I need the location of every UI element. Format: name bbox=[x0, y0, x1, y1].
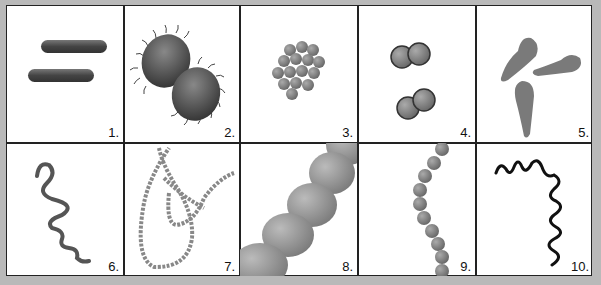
cell-1-bacilli: 1. bbox=[7, 6, 123, 142]
cell-6-spirillum: 6. bbox=[7, 143, 123, 276]
cell-4-diplococci: 4. bbox=[358, 6, 475, 142]
cell-number: 9. bbox=[460, 259, 471, 274]
cell-number: 4. bbox=[460, 125, 471, 140]
staphylococci-icon bbox=[240, 6, 357, 142]
chain-closeup-icon bbox=[240, 143, 357, 276]
club-bacteria-icon bbox=[476, 6, 593, 142]
cell-number: 10. bbox=[571, 259, 589, 274]
flagellated-cocci-icon bbox=[124, 6, 239, 142]
bacteria-shapes-grid: 1. 2. 3. bbox=[6, 5, 592, 276]
cell-number: 8. bbox=[342, 259, 353, 274]
long-chain-icon bbox=[124, 143, 239, 276]
spirillum-icon bbox=[7, 143, 123, 276]
cell-2-flagellated: 2. bbox=[124, 6, 239, 142]
cell-number: 7. bbox=[224, 259, 235, 274]
spirochete-icon bbox=[476, 143, 593, 276]
cell-number: 2. bbox=[224, 125, 235, 140]
cell-number: 6. bbox=[108, 259, 119, 274]
cell-9-streptococci: 9. bbox=[358, 143, 475, 276]
cell-number: 1. bbox=[108, 125, 119, 140]
streptococci-chain-icon bbox=[358, 143, 475, 276]
bacilli-rods-icon bbox=[7, 6, 123, 142]
cell-7-streptococci-long: 7. bbox=[124, 143, 239, 276]
cell-5-club-shaped: 5. bbox=[476, 6, 593, 142]
cell-number: 5. bbox=[578, 125, 589, 140]
cell-3-staphylococci: 3. bbox=[240, 6, 357, 142]
cell-10-spirochete: 10. bbox=[476, 143, 593, 276]
diplococci-icon bbox=[358, 6, 475, 142]
cell-number: 3. bbox=[342, 125, 353, 140]
cell-8-chain-closeup: 8. bbox=[240, 143, 357, 276]
